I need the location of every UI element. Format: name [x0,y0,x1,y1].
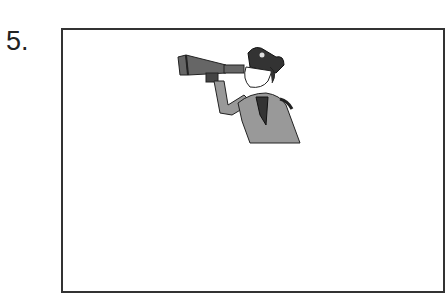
pirate-telescope-icon [176,45,306,149]
item-number: 5. [6,28,29,55]
